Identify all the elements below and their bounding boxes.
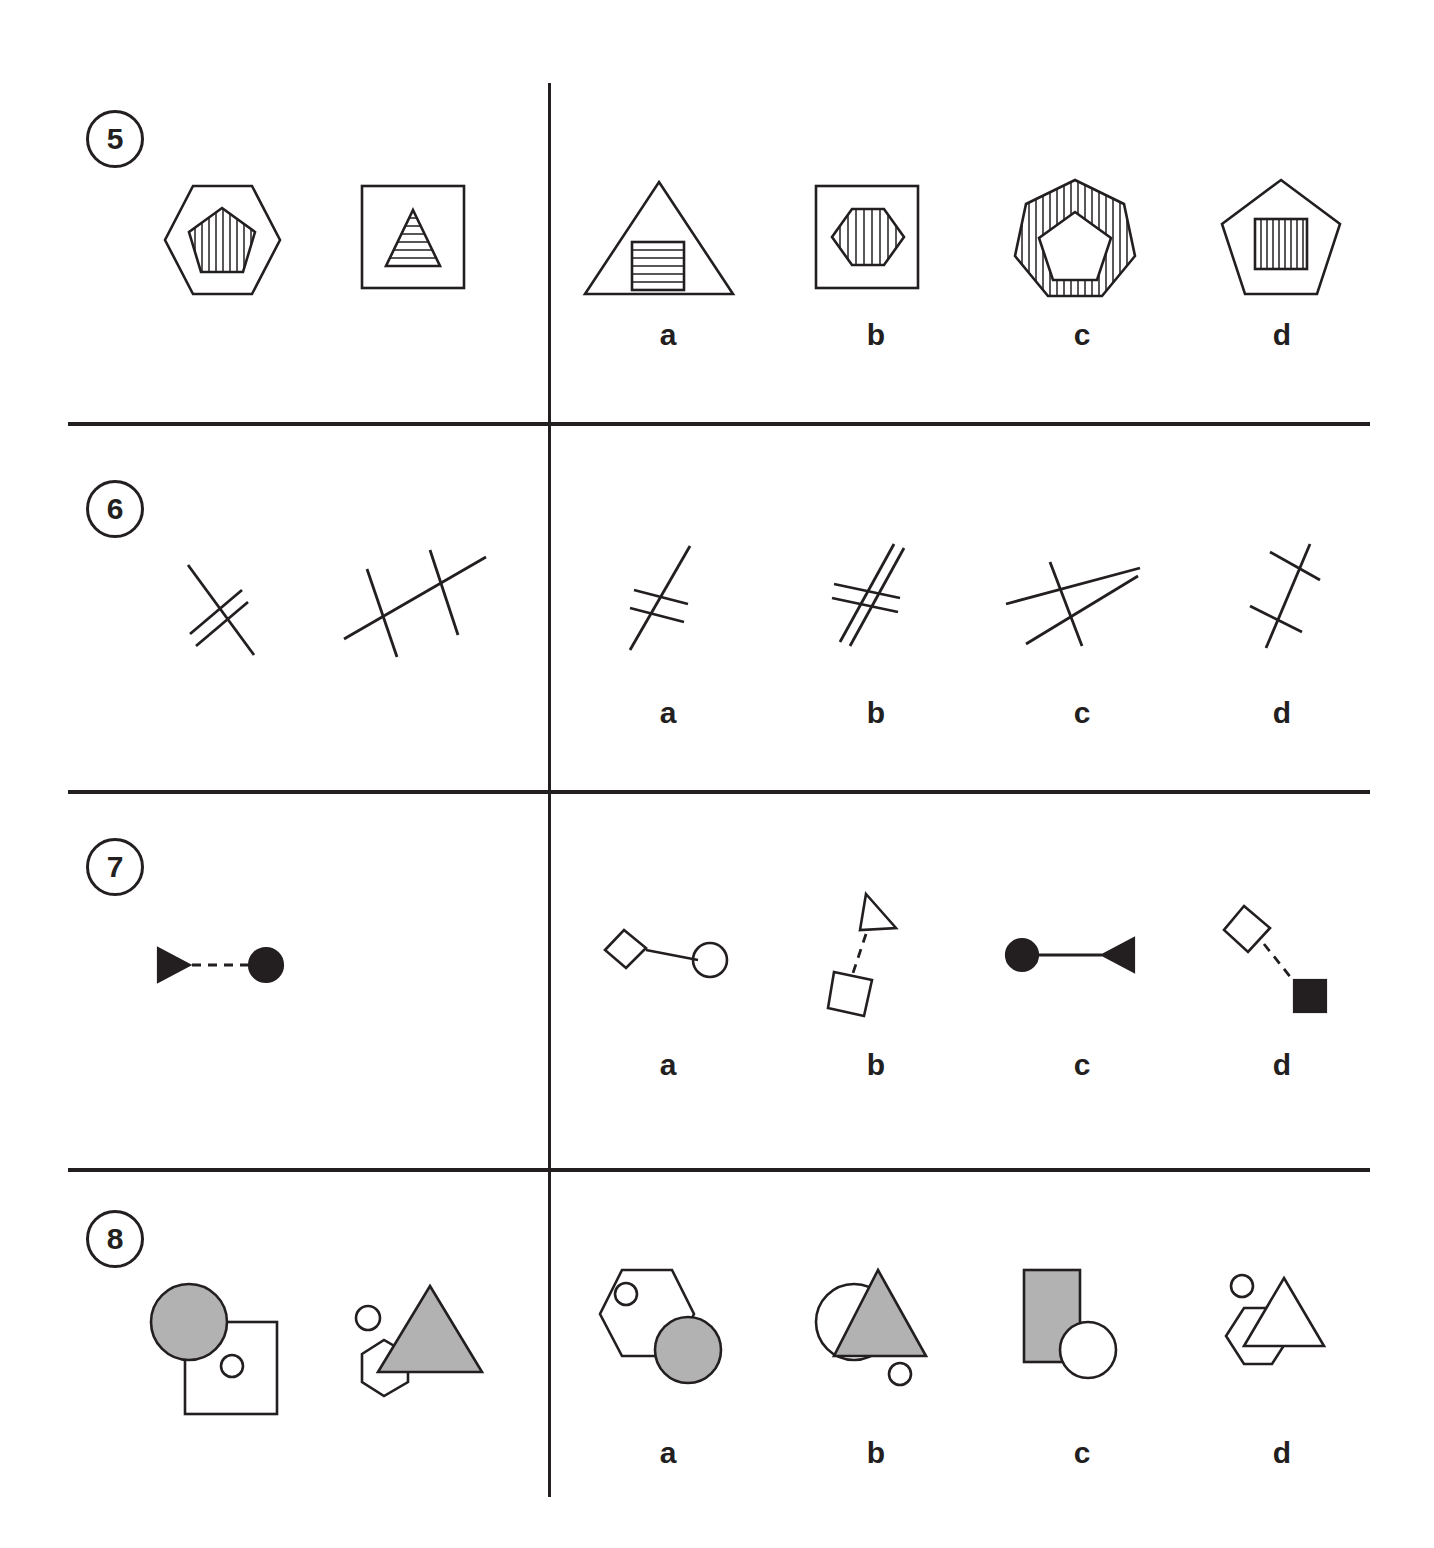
option-figure-8-a[interactable] [596,1264,732,1394]
option-letter-6-d: d [1252,696,1312,730]
option-figure-7-c[interactable] [1002,930,1142,980]
option-letter-8-a: a [638,1436,698,1470]
option-figure-6-a[interactable] [618,542,708,654]
option-figure-5-d[interactable] [1218,176,1344,298]
option-letter-6-b: b [846,696,906,730]
question-number-6: 6 [86,480,144,538]
option-letter-8-b: b [846,1436,906,1470]
question-row-6: 6 [0,422,1434,790]
question-number-8: 8 [86,1210,144,1268]
prompt-figure-three-crossing-lines [340,547,490,662]
option-figure-8-d[interactable] [1218,1264,1334,1394]
option-figure-7-a[interactable] [600,922,730,982]
question-number-7: 7 [86,838,144,896]
worksheet-page: 5 [0,0,1434,1548]
prompt-figure-long-line-with-two-short-crossings [182,562,292,662]
option-letter-7-d: d [1252,1048,1312,1082]
option-letter-7-b: b [846,1048,906,1082]
option-letter-5-c: c [1052,318,1112,352]
question-number-5: 5 [86,110,144,168]
prompt-figure-square-with-striped-triangle [358,182,468,292]
prompt-figure-gray-triangle-over-hexagon-with-outer-circle [340,1278,490,1423]
option-figure-5-a[interactable] [580,178,738,300]
option-letter-6-a: a [638,696,698,730]
question-row-7: 7 a [0,790,1434,1168]
option-figure-7-d[interactable] [1218,902,1330,1020]
option-figure-7-b[interactable] [824,890,914,1020]
option-figure-6-b[interactable] [826,540,916,652]
option-figure-8-b[interactable] [804,1264,940,1394]
option-figure-6-c[interactable] [1002,554,1146,650]
question-row-5: 5 [0,0,1434,422]
question-row-8: 8 a [0,1168,1434,1548]
option-letter-7-c: c [1052,1048,1112,1082]
option-letter-5-d: d [1252,318,1312,352]
option-figure-8-c[interactable] [1016,1264,1132,1394]
prompt-figure-solid-triangle-dashed-solid-circle [152,940,292,990]
option-letter-5-b: b [846,318,906,352]
prompt-figure-hexagon-with-striped-pentagon [160,180,285,300]
option-figure-5-c[interactable] [1012,176,1138,302]
option-figure-6-d[interactable] [1248,540,1332,652]
prompt-figure-gray-circle-over-square-with-inner-circle [152,1280,282,1425]
option-letter-5-a: a [638,318,698,352]
option-letter-6-c: c [1052,696,1112,730]
option-letter-8-c: c [1052,1436,1112,1470]
option-letter-7-a: a [638,1048,698,1082]
option-letter-8-d: d [1252,1436,1312,1470]
option-figure-5-b[interactable] [812,182,922,292]
